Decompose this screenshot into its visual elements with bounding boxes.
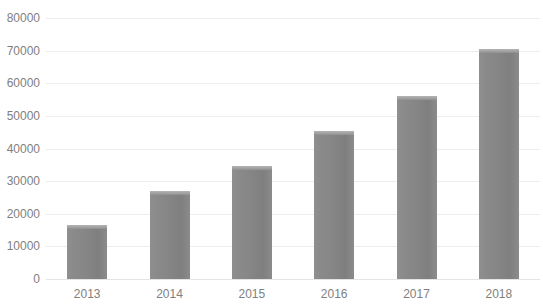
- bar-2018: [479, 49, 519, 279]
- bar-highlight: [67, 225, 107, 229]
- y-axis-tick-label: 60000: [0, 77, 40, 89]
- y-axis-tick-label: 50000: [0, 110, 40, 122]
- gridline: [46, 51, 540, 52]
- y-axis-tick-label: 30000: [0, 175, 40, 187]
- axis-baseline: [46, 279, 540, 280]
- x-axis-tick-label: 2015: [212, 288, 292, 300]
- bar-2015: [232, 166, 272, 279]
- bar-2017: [397, 96, 437, 279]
- bar-highlight: [150, 191, 190, 195]
- bar-highlight: [232, 166, 272, 170]
- y-axis-tick-label: 40000: [0, 143, 40, 155]
- y-axis-tick-label: 20000: [0, 208, 40, 220]
- gridline: [46, 246, 540, 247]
- bar-highlight: [479, 49, 519, 53]
- plot-area: [46, 18, 540, 279]
- bar-2013: [67, 225, 107, 279]
- bar-2014: [150, 191, 190, 279]
- bar-highlight: [314, 131, 354, 135]
- bar-2016: [314, 131, 354, 279]
- gridline: [46, 181, 540, 182]
- x-axis-tick-label: 2014: [130, 288, 210, 300]
- gridline: [46, 83, 540, 84]
- gridline: [46, 214, 540, 215]
- y-axis-tick-label: 10000: [0, 240, 40, 252]
- y-axis-tick-label: 70000: [0, 45, 40, 57]
- y-axis-tick-label: 0: [0, 273, 40, 285]
- gridline: [46, 149, 540, 150]
- x-axis-tick-label: 2016: [294, 288, 374, 300]
- x-axis-tick-label: 2017: [377, 288, 457, 300]
- bar-chart: 0100002000030000400005000060000700008000…: [0, 0, 543, 307]
- gridline: [46, 116, 540, 117]
- bar-highlight: [397, 96, 437, 100]
- y-axis-tick-label: 80000: [0, 12, 40, 24]
- x-axis-tick-label: 2013: [47, 288, 127, 300]
- x-axis-tick-label: 2018: [459, 288, 539, 300]
- gridline: [46, 18, 540, 19]
